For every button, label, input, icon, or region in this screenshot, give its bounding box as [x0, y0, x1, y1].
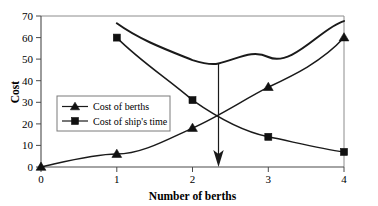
legend-label-cost-of-berths: Cost of berths — [93, 101, 149, 112]
square-marker-icon — [72, 118, 79, 125]
y-axis-title: Cost — [9, 81, 21, 104]
y-axis-ticks — [36, 16, 41, 167]
y-tick-label-10: 10 — [22, 139, 34, 151]
x-tick-label-2: 2 — [190, 173, 196, 185]
x-tick-label-1: 1 — [114, 173, 120, 185]
cost-vs-berths-chart: 70 60 50 40 30 20 10 0 0 1 2 3 4 Cost Nu… — [0, 0, 378, 206]
y-tick-label-20: 20 — [22, 118, 34, 130]
series-line-cost-of-ships-time — [117, 38, 344, 152]
y-tick-label-50: 50 — [22, 53, 34, 65]
y-tick-label-30: 30 — [22, 96, 34, 108]
y-tick-label-40: 40 — [22, 75, 34, 87]
x-tick-label-3: 3 — [266, 173, 272, 185]
chart-container: 70 60 50 40 30 20 10 0 0 1 2 3 4 Cost Nu… — [0, 0, 378, 206]
y-tick-label-0: 0 — [28, 161, 34, 173]
y-tick-label-70: 70 — [22, 10, 34, 22]
x-tick-label-4: 4 — [341, 173, 347, 185]
x-axis-title: Number of berths — [149, 190, 237, 202]
series-line-total-cost — [117, 21, 344, 64]
x-tick-label-0: 0 — [38, 173, 44, 185]
markers-cost-of-ships-time — [113, 34, 347, 155]
x-axis-ticks — [41, 167, 344, 172]
legend-label-cost-of-ships-time: Cost of ship's time — [93, 116, 168, 127]
y-tick-label-60: 60 — [22, 32, 34, 44]
chart-legend: Cost of berths Cost of ship's time — [57, 96, 170, 131]
